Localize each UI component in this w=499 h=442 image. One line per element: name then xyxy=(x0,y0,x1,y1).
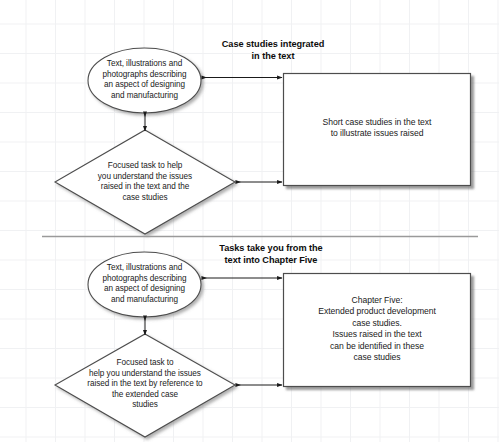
ellipse-label-top: Text, illustrations and photographs desc… xyxy=(88,59,201,101)
diagram-canvas: Case studies integrated in the text Text… xyxy=(0,0,499,442)
diamond-label-top: Focused task to help you understand the … xyxy=(70,161,220,203)
caption-top: Case studies integrated in the text xyxy=(193,39,353,62)
caption-bottom: Tasks take you from the text into Chapte… xyxy=(191,243,351,266)
ellipse-label-bottom: Text, illustrations and photographs desc… xyxy=(88,263,201,305)
rectangle-label-top: Short case studies in the text to illust… xyxy=(294,117,460,140)
diamond-label-bottom: Focused task to help you understand the … xyxy=(57,358,233,411)
diagram-text-layer: Case studies integrated in the text Text… xyxy=(0,0,499,442)
rectangle-label-bottom: Chapter Five: Extended product developme… xyxy=(292,295,462,363)
